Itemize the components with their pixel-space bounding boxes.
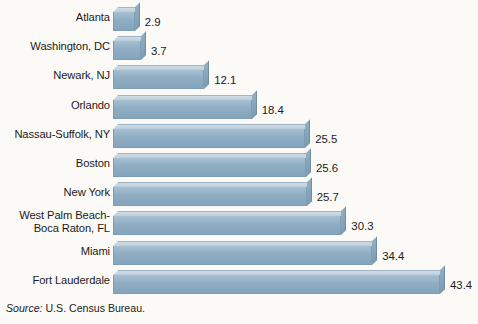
bar (113, 36, 141, 60)
category-label: Nassau-Suffolk, NY (0, 128, 110, 140)
bar-value-label: 18.4 (262, 104, 284, 116)
bar (113, 65, 204, 89)
bar-front-face (113, 100, 252, 119)
bar-side-face (440, 265, 445, 294)
bar-front-face (113, 129, 305, 148)
bar-row: Newark, NJ12.1 (0, 62, 478, 92)
category-label: New York (0, 186, 110, 198)
bar (113, 124, 305, 148)
bar (113, 7, 135, 31)
bar-side-face (306, 148, 311, 177)
category-label: Atlanta (0, 11, 110, 23)
bar-front-face (113, 246, 372, 265)
category-label: Washington, DC (0, 40, 110, 52)
bar-row: Atlanta2.9 (0, 4, 478, 34)
bar-row: Orlando18.4 (0, 92, 478, 122)
bar-row: Washington, DC3.7 (0, 33, 478, 63)
category-label-line: Boston (0, 157, 110, 169)
bar-side-face (341, 207, 346, 236)
bar-front-face (113, 216, 341, 235)
source-text: U.S. Census Bureau. (45, 302, 145, 314)
bar (113, 270, 440, 294)
bar-side-face (204, 61, 209, 90)
bar-row: New York25.7 (0, 179, 478, 209)
category-label: Orlando (0, 99, 110, 111)
bar-chart-figure: Atlanta2.9Washington, DC3.7Newark, NJ12.… (0, 0, 478, 324)
bar (113, 153, 306, 177)
bar-row: Nassau-Suffolk, NY25.5 (0, 121, 478, 151)
bar-front-face (113, 187, 307, 206)
bar-value-label: 12.1 (214, 74, 236, 86)
category-label: West Palm Beach-Boca Raton, FL (0, 209, 110, 234)
category-label: Fort Lauderdale (0, 274, 110, 286)
bar-row: Boston25.6 (0, 150, 478, 180)
source-note: Source: U.S. Census Bureau. (6, 302, 145, 314)
bar (113, 241, 372, 265)
category-label-line: Fort Lauderdale (0, 274, 110, 286)
bar-side-face (307, 177, 312, 206)
category-label-line: New York (0, 186, 110, 198)
bar-value-label: 3.7 (151, 45, 167, 57)
bar-value-label: 25.6 (316, 162, 338, 174)
bar-value-label: 25.5 (315, 133, 337, 145)
bar-value-label: 43.4 (450, 279, 472, 291)
bar-front-face (113, 275, 440, 294)
bar-row: Miami34.4 (0, 238, 478, 268)
category-label-line: Orlando (0, 99, 110, 111)
category-label-line: Atlanta (0, 11, 110, 23)
bar (113, 95, 252, 119)
category-label: Newark, NJ (0, 69, 110, 81)
category-label-line: Miami (0, 245, 110, 257)
bar (113, 211, 341, 235)
bar-front-face (113, 41, 141, 60)
bar-side-face (141, 31, 146, 60)
bar-side-face (252, 90, 257, 119)
category-label-line: Nassau-Suffolk, NY (0, 128, 110, 140)
bar-value-label: 25.7 (317, 191, 339, 203)
bar-row: Fort Lauderdale43.4 (0, 267, 478, 297)
bar-value-label: 34.4 (382, 250, 404, 262)
bar-row: West Palm Beach-Boca Raton, FL30.3 (0, 208, 478, 238)
category-label-line: Newark, NJ (0, 69, 110, 81)
bar-side-face (135, 2, 140, 31)
category-label-line: Washington, DC (0, 40, 110, 52)
category-label: Boston (0, 157, 110, 169)
category-label-line: Boca Raton, FL (0, 222, 110, 234)
source-prefix: Source: (6, 302, 43, 314)
bar-side-face (372, 236, 377, 265)
bar (113, 182, 307, 206)
bar-value-label: 30.3 (351, 220, 373, 232)
bar-front-face (113, 70, 204, 89)
bar-front-face (113, 12, 135, 31)
bar-front-face (113, 158, 306, 177)
bar-side-face (305, 119, 310, 148)
category-label: Miami (0, 245, 110, 257)
bar-value-label: 2.9 (145, 16, 161, 28)
category-label-line: West Palm Beach- (0, 209, 110, 221)
chart-plot-area: Atlanta2.9Washington, DC3.7Newark, NJ12.… (0, 0, 478, 292)
